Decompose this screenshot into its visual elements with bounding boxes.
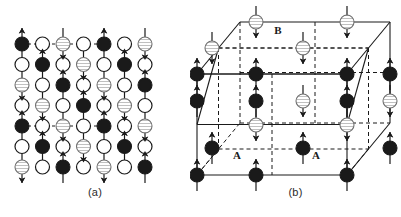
lattice-site: [56, 78, 70, 92]
lattice-site: [97, 58, 111, 72]
cube-atom: [190, 168, 204, 182]
caption-panel-b: (b): [190, 186, 401, 198]
cube-atom: [340, 15, 354, 29]
lattice-site: [97, 119, 111, 133]
cube-atoms: [190, 6, 397, 191]
sublattice-label-b-0: B: [274, 24, 282, 36]
cube-guide: [197, 48, 219, 125]
lattice-site: [138, 160, 152, 174]
lattice-site: [77, 99, 91, 113]
cube-atom: [249, 67, 263, 81]
lattice-site: [77, 37, 91, 51]
cube-edges: [197, 22, 390, 175]
cube-atom: [340, 168, 354, 182]
lattice-site: [138, 99, 152, 113]
lattice-site: [77, 140, 91, 154]
panel-a: (a): [0, 0, 190, 217]
lattice-site: [36, 140, 50, 154]
lattice-site: [15, 58, 29, 72]
cube-guide: [347, 48, 369, 125]
panel-b: BAA (b): [190, 0, 401, 217]
lattice-site: [97, 37, 111, 51]
lattice-site: [15, 78, 29, 92]
cube-atom: [340, 118, 354, 132]
lattice-site: [97, 78, 111, 92]
lattice-site: [118, 160, 132, 174]
cube-atom: [249, 15, 263, 29]
lattice-site: [118, 78, 132, 92]
cube-atom: [205, 141, 219, 155]
cube-atom: [340, 94, 354, 108]
lattice-site: [15, 140, 29, 154]
cube-atom: [383, 94, 397, 108]
lattice-site: [36, 99, 50, 113]
lattice-site: [118, 99, 132, 113]
cube-atom: [383, 141, 397, 155]
cube-atom: [296, 41, 310, 55]
cube-atom: [249, 168, 263, 182]
lattice-site: [118, 140, 132, 154]
caption-panel-a: (a): [0, 186, 190, 198]
lattice-site: [138, 119, 152, 133]
lattice-site: [36, 160, 50, 174]
lattice-site: [77, 58, 91, 72]
lattice-site: [56, 160, 70, 174]
lattice-site: [118, 58, 132, 72]
lattice-site: [138, 78, 152, 92]
lattice-site: [15, 119, 29, 133]
lattice-site: [36, 58, 50, 72]
lattice-site: [97, 160, 111, 174]
lattice-site: [97, 140, 111, 154]
lattice-site: [56, 99, 70, 113]
panel-b-canvas: BAA: [190, 0, 401, 217]
cube-atom: [249, 118, 263, 132]
cube-atom: [340, 67, 354, 81]
lattice-site: [77, 119, 91, 133]
cube-atom: [383, 67, 397, 81]
figure-root: (a) BAA (b): [0, 0, 401, 217]
lattice-site: [15, 37, 29, 51]
sublattice-label-a-1: A: [233, 149, 241, 161]
lattice-sites-a: [15, 28, 152, 183]
lattice-site: [15, 160, 29, 174]
panel-a-canvas: [0, 0, 190, 217]
cube-atom: [190, 94, 204, 108]
lattice-site: [36, 78, 50, 92]
cube-atom: [296, 141, 310, 155]
cube-atom: [190, 67, 204, 81]
lattice-site: [56, 119, 70, 133]
cube-atom: [296, 94, 310, 108]
sublattice-label-a-2: A: [312, 149, 320, 161]
cube-atom: [249, 94, 263, 108]
lattice-site: [138, 37, 152, 51]
cube-atom: [205, 41, 219, 55]
lattice-site: [56, 37, 70, 51]
